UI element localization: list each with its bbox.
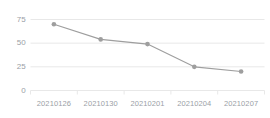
x-axis-tick-group: [31, 91, 265, 95]
data-point-marker[interactable]: [239, 69, 244, 74]
x-axis-tick-label: 20210126: [31, 99, 78, 108]
y-axis-tick-label: 25: [2, 63, 26, 71]
x-axis-tick-label: 20210130: [77, 99, 124, 108]
y-axis-tick-label: 75: [2, 16, 26, 24]
x-axis-tick-label: 20210204: [171, 99, 218, 108]
data-series-line: [54, 24, 241, 71]
y-axis-tick-label-wrap: 0: [2, 87, 26, 95]
y-axis-tick-label: 0: [2, 87, 26, 95]
data-point-marker[interactable]: [192, 65, 197, 70]
data-point-marker[interactable]: [145, 42, 150, 47]
data-point-marker-group: [52, 22, 244, 74]
y-axis-tick-label-wrap: 50: [2, 39, 26, 47]
y-axis-tick-label: 50: [2, 39, 26, 47]
line-chart: 0255075 20210126202101302021020120210204…: [0, 0, 270, 118]
data-point-marker[interactable]: [98, 37, 103, 42]
gridline-group: [31, 20, 265, 91]
y-axis-tick-label-wrap: 75: [2, 16, 26, 24]
x-axis-tick-label: 20210201: [124, 99, 171, 108]
data-point-marker[interactable]: [52, 22, 57, 27]
y-axis-tick-label-wrap: 25: [2, 63, 26, 71]
x-axis-tick-label: 20210207: [218, 99, 265, 108]
